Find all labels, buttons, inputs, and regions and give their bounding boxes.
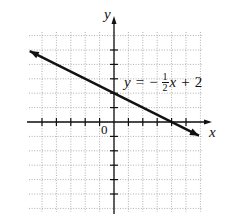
equation-constant: 2 [195,74,203,91]
equation-lhs: y [124,74,131,91]
equation-equals: = [136,74,144,91]
origin-label: 0 [101,122,108,138]
fraction-denominator: 2 [163,83,168,93]
coordinate-plane [0,0,236,216]
equation-plus: + [181,74,189,91]
equation-fraction: 1 2 [162,72,169,93]
y-axis-label: y [104,6,111,23]
equation-sign: − [149,74,157,91]
x-axis-label: x [209,124,216,141]
axes [27,16,212,214]
equation-label: y = − 1 2 x + 2 [124,72,202,93]
equation-variable: x [170,74,177,91]
